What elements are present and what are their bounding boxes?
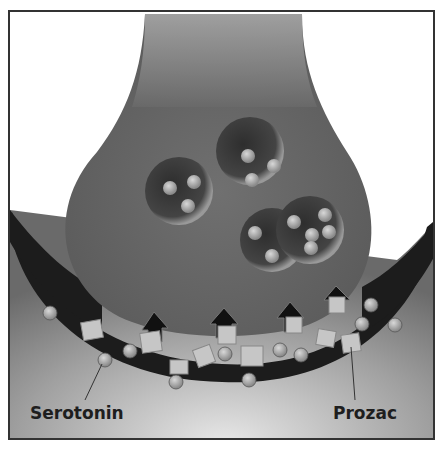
- synapse-illustration: [10, 12, 435, 440]
- prozac-label: Prozac: [333, 403, 397, 423]
- diagram-frame: Serotonin Prozac: [8, 10, 435, 440]
- serotonin-label: Serotonin: [30, 403, 124, 423]
